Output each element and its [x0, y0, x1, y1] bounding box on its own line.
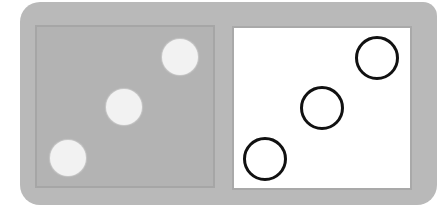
- filled-dot-icon: [50, 140, 86, 176]
- filled-dot-icon: [162, 39, 198, 75]
- filled-dot-icon: [106, 89, 142, 125]
- drawn-circle-icon: [243, 137, 287, 181]
- drawn-circle-icon: [300, 86, 344, 130]
- drawn-circle-icon: [355, 36, 399, 80]
